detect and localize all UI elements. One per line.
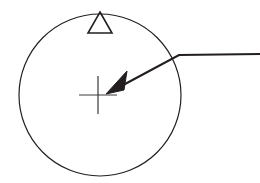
- canvas-background: [0, 0, 260, 183]
- technical-line-drawing: [0, 0, 260, 183]
- diagram-canvas: Line drawing: large circle with a small …: [0, 0, 260, 183]
